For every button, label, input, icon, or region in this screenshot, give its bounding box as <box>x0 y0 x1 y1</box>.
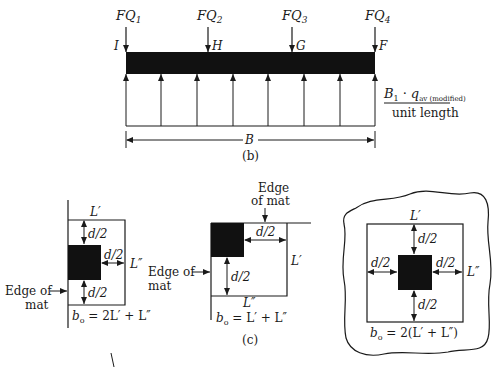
svg-text:d/2: d/2 <box>256 225 275 239</box>
point-label-F: F <box>378 39 388 53</box>
svg-text:d/2: d/2 <box>418 298 437 312</box>
svg-text:Edge of: Edge of <box>148 265 196 279</box>
dimension-B: B <box>126 131 375 148</box>
svg-text:mat: mat <box>25 298 49 312</box>
svg-text:d/2: d/2 <box>88 286 107 300</box>
point-label-H: H <box>211 39 223 53</box>
stray-mark <box>111 353 114 367</box>
svg-text:Edge of: Edge of <box>5 284 53 298</box>
svg-text:L″: L″ <box>129 257 143 271</box>
svg-text:L″: L″ <box>466 265 480 279</box>
caption-c-label: (c) <box>242 333 258 347</box>
svg-text:bo = 2(L′ + L″): bo = 2(L′ + L″) <box>370 326 458 342</box>
load-label-2: FQ2 <box>196 8 223 25</box>
svg-text:bo = L′ + L″: bo = L′ + L″ <box>216 311 288 327</box>
pressure-label: B1·qav (modified) unit length <box>383 86 466 120</box>
load-label-4: FQ4 <box>364 8 391 25</box>
svg-text:d/2: d/2 <box>104 248 123 262</box>
mat-strip-beam <box>126 52 375 74</box>
svg-text:unit length: unit length <box>392 106 459 120</box>
svg-text:d/2: d/2 <box>88 227 107 241</box>
svg-text:Edge: Edge <box>258 181 289 195</box>
part-b-beam-diagram: FQ1 FQ2 FQ3 FQ4 I H G F <box>113 8 466 163</box>
figure-canvas: FQ1 FQ2 FQ3 FQ4 I H G F <box>0 0 497 368</box>
svg-text:L″: L″ <box>242 296 256 310</box>
svg-text:mat: mat <box>148 279 172 293</box>
svg-text:d/2: d/2 <box>371 256 390 270</box>
svg-text:L′: L′ <box>290 254 302 268</box>
svg-text:L′: L′ <box>89 205 101 219</box>
point-label-I: I <box>113 39 119 53</box>
column <box>68 245 101 280</box>
svg-text:bo = 2L′ + L″: bo = 2L′ + L″ <box>72 309 151 325</box>
svg-text:B: B <box>244 133 254 147</box>
interior-column-diagram: L′ d/2 d/2 d/2 L″ d/2 bo = 2(L′ + L″) <box>343 191 491 355</box>
svg-text:d/2: d/2 <box>418 232 437 246</box>
svg-text:L′: L′ <box>409 209 421 223</box>
load-label-1: FQ1 <box>115 8 141 25</box>
svg-text:d/2: d/2 <box>436 256 455 270</box>
svg-text:B1·qav (modified): B1·qav (modified) <box>383 86 466 103</box>
svg-text:of mat: of mat <box>251 194 290 208</box>
svg-text:d/2: d/2 <box>231 270 250 284</box>
column <box>211 223 244 257</box>
column <box>398 255 432 290</box>
corner-column-diagram: Edge of mat d/2 L′ d/2 Edge of mat L″ bo… <box>148 181 311 327</box>
caption-b: (b) <box>242 149 259 163</box>
point-label-G: G <box>296 39 306 53</box>
soil-pressure-arrows <box>126 74 375 126</box>
edge-column-diagram: L′ d/2 d/2 L″ d/2 Edge of mat bo = 2L′ +… <box>5 200 151 328</box>
load-label-3: FQ3 <box>281 8 308 25</box>
